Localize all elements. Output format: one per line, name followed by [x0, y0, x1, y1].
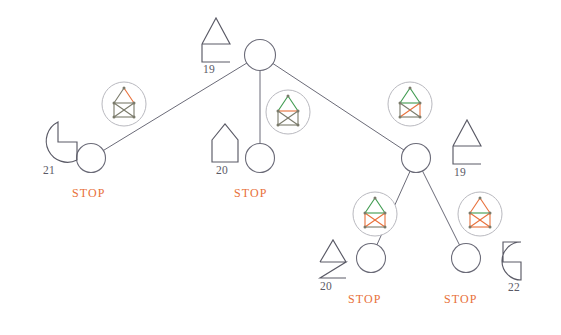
diagram-canvas: 19 21 20 19 20 22 STOP STOP STOP STOP: [0, 0, 561, 335]
triangle-over-zigzag-icon: [320, 240, 346, 278]
shape-value-mid: 20: [216, 164, 228, 176]
triangle-over-open-right-square-icon: [202, 18, 230, 62]
stop-label-left: STOP: [72, 186, 106, 201]
stop-label-rl: STOP: [348, 292, 382, 307]
shape-marker-right: [453, 120, 481, 164]
stop-label-mid: STOP: [234, 186, 268, 201]
shape-value-root: 19: [203, 63, 215, 75]
shape-value-rr: 22: [508, 281, 520, 293]
stop-label-rr: STOP: [444, 292, 478, 307]
house-pentagon-icon: [212, 124, 238, 162]
circle-notch-right-icon: [502, 242, 521, 280]
shape-value-rl: 20: [320, 280, 332, 292]
shape-marker-rl: [320, 240, 346, 278]
shape-marker-root: [202, 18, 230, 62]
pacman-notch-upper-right-icon: [46, 122, 77, 162]
shape-marker-left: [46, 122, 77, 162]
shape-markers-layer: [0, 0, 561, 335]
shape-value-left: 21: [43, 164, 55, 176]
triangle-over-open-top-square-icon: [453, 120, 481, 164]
shape-value-right: 19: [454, 166, 466, 178]
shape-marker-mid: [212, 124, 238, 162]
shape-marker-rr: [502, 242, 521, 280]
